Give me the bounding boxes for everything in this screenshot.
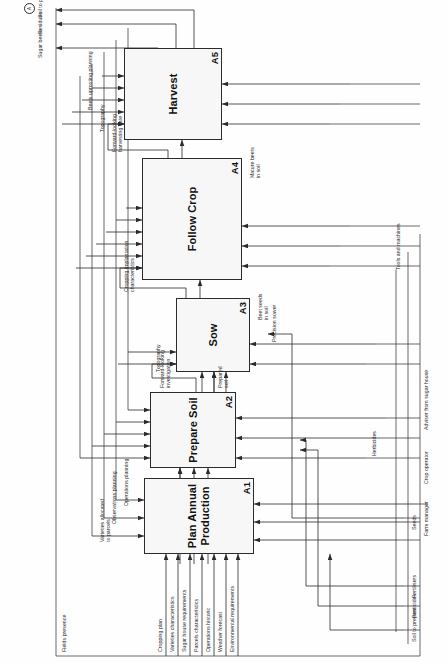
- label-mature-beets-in-soil: Mature beets in soil: [250, 147, 262, 178]
- label-precision-sower: Precision sower: [272, 305, 278, 342]
- label-topography-sow: Topography: [156, 344, 162, 372]
- activity-box-a2[interactable]: Prepare Soil A2: [150, 392, 236, 468]
- activity-title: Plan Annual Production: [186, 479, 211, 553]
- label-crop-operator: Crop operator: [424, 451, 430, 484]
- activity-box-a3[interactable]: Sow A3: [176, 298, 250, 372]
- activity-code: A2: [223, 396, 234, 408]
- label-weather-forecast: Weather forecast: [218, 612, 224, 652]
- label-topography-harvest: Topography: [100, 104, 106, 132]
- label-output-soil-to-prepare: Soil to prepare: [38, 0, 44, 18]
- label-herbicides: Herbicides: [372, 431, 378, 456]
- activity-code: A3: [237, 302, 248, 314]
- activity-title: Harvest: [167, 73, 180, 114]
- label-forward-looking-harvesting-date: Forward-looking harvesting date: [112, 114, 124, 152]
- activity-box-a1[interactable]: Plan Annual Production A1: [144, 478, 254, 554]
- label-observations-planning: Observations planning: [112, 471, 118, 524]
- diagram-page: Plan Annual Production A1 Prepare Soil A…: [0, 0, 448, 664]
- diagram-canvas: Plan Annual Production A1 Prepare Soil A…: [0, 0, 448, 664]
- label-varieties-characteristics: Varieties characteristics: [170, 596, 176, 652]
- label-input-fertilisers: Fertilisers: [412, 575, 418, 598]
- activity-title: Prepare Soil: [187, 397, 200, 462]
- label-operations-historic: Operations historic: [206, 608, 212, 652]
- label-sugar-house-requirements: Sugar house requirements: [182, 590, 188, 652]
- label-beets-uprooting-planning: Beets uprooting planning: [88, 51, 94, 110]
- activity-code: A4: [229, 162, 240, 174]
- label-varieties-allocated-to-parcels: Varieties allocated to parcels: [100, 499, 112, 542]
- label-beet-seeds-in-soil: Beet seeds in soil: [258, 294, 270, 320]
- label-operations-planning: Operations planning: [124, 459, 130, 506]
- label-parcels-characteristics: Parcels characteristics: [194, 599, 200, 652]
- label-cropping-plan: Cropping plan: [158, 619, 164, 652]
- activity-code: A5: [209, 52, 220, 64]
- label-input-seeds: Seeds: [412, 515, 418, 530]
- activity-box-a4[interactable]: Follow Crop A4: [142, 158, 242, 280]
- label-farm-manager: Farm manager: [424, 501, 430, 536]
- label-tools-and-machines: Tools and machines: [396, 223, 402, 270]
- activity-box-a5[interactable]: Harvest A5: [124, 48, 222, 140]
- activity-title: Sow: [207, 324, 220, 347]
- tunnel-marker-icon: A: [24, 3, 35, 14]
- label-cropping-implantation-characteristics: Cropping implantation characteristics: [124, 240, 136, 292]
- label-fields-presence: Fields presence: [62, 615, 68, 652]
- activity-code: A1: [241, 482, 252, 494]
- label-adviser-from-sugar-house: Adviser from sugar house: [424, 370, 430, 430]
- label-environmental-requirements: Environmental requirements: [230, 586, 236, 652]
- label-prepared-soil: Prepared soil: [218, 366, 230, 388]
- activity-title: Follow Crop: [186, 187, 199, 252]
